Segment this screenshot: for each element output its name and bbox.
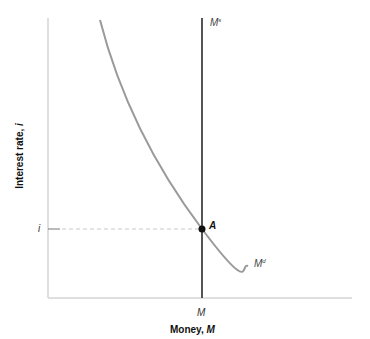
md-label-sup: d: [262, 258, 265, 264]
x-tick-label: M: [197, 307, 205, 318]
ms-label-sup: s: [218, 17, 221, 23]
equilibrium-point: [199, 226, 206, 233]
x-axis-title-text: Money,: [170, 324, 206, 335]
ms-label: Ms: [210, 17, 221, 28]
md-label: Md: [254, 258, 266, 269]
chart-canvas: [0, 0, 370, 339]
money-demand-curve: [100, 20, 248, 272]
x-axis-title: Money, M: [170, 324, 215, 335]
y-axis-title-text: Interest rate,: [14, 126, 25, 189]
y-axis-title: Interest rate, i: [14, 116, 25, 196]
x-axis-title-var: M: [206, 324, 214, 335]
y-axis-title-var: i: [14, 123, 25, 126]
point-a-label: A: [209, 220, 216, 231]
y-tick-label: i: [38, 223, 40, 234]
